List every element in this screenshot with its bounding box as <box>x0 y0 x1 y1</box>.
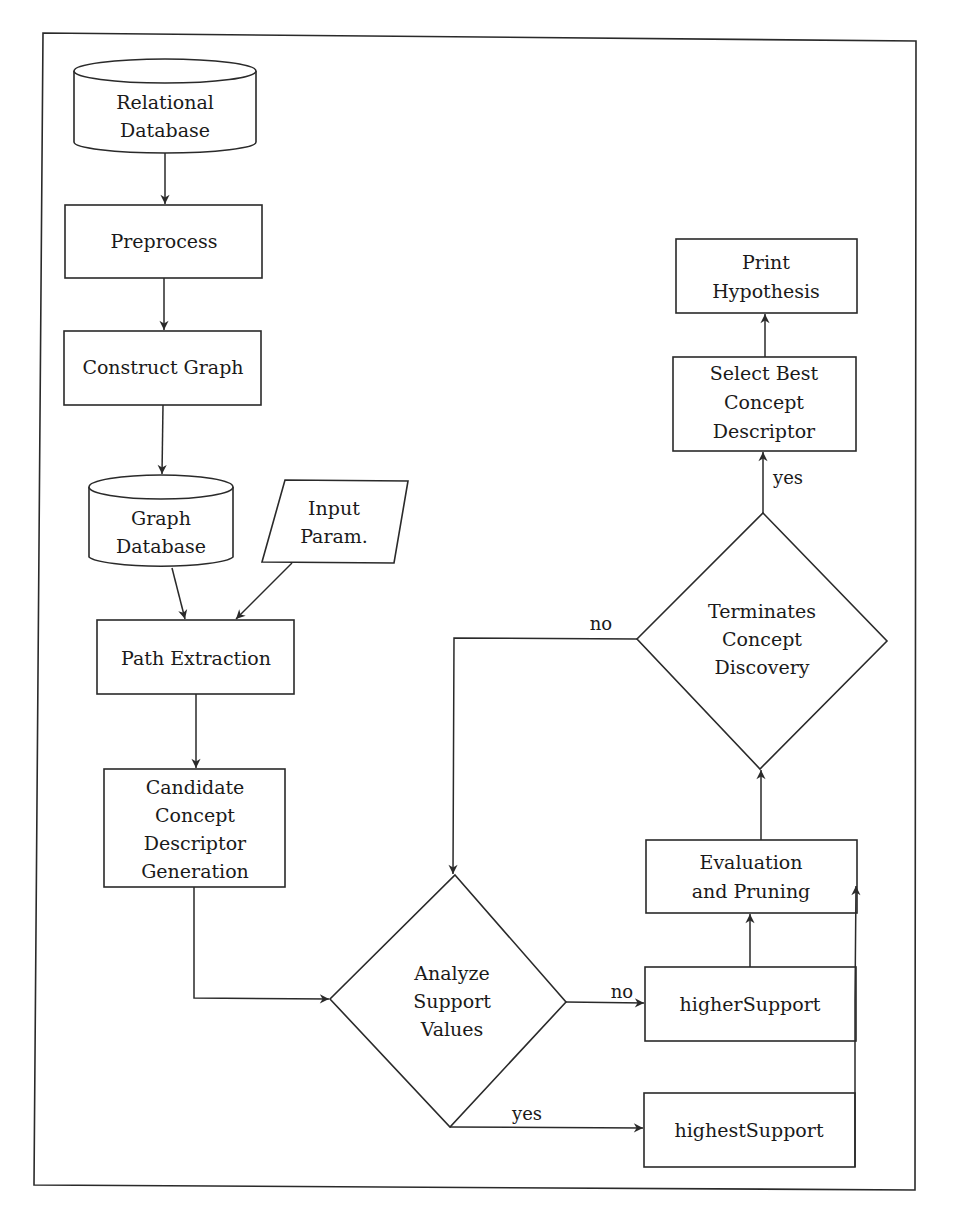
node-label: Concept <box>155 804 235 826</box>
node-label: Concept <box>722 628 802 650</box>
node-label: highestSupport <box>674 1119 823 1141</box>
node-label: Discovery <box>715 656 810 678</box>
node-label: Input <box>308 497 360 519</box>
edge-label-terminates-yes: yes <box>772 467 803 488</box>
node-label: Generation <box>141 860 249 882</box>
node-label: Relational <box>116 91 214 113</box>
node-construct-graph[interactable]: Construct Graph <box>64 331 261 405</box>
node-label: Select Best <box>710 362 819 384</box>
node-print-hypothesis[interactable]: Print Hypothesis <box>676 239 857 313</box>
node-analyze-support-values[interactable]: Analyze Support Values <box>330 875 566 1127</box>
node-higher-support[interactable]: higherSupport <box>645 967 856 1041</box>
node-select-best-concept-descriptor[interactable]: Select Best Concept Descriptor <box>673 357 856 451</box>
cylinder-top <box>74 59 256 83</box>
node-label: Construct Graph <box>82 356 243 378</box>
node-label: Concept <box>724 391 804 413</box>
edge-candidate-to-analyze <box>194 887 329 999</box>
node-label: Terminates <box>708 600 816 622</box>
input-parallelogram <box>262 480 408 563</box>
edge-label-terminates-no: no <box>590 613 612 634</box>
node-label: Descriptor <box>144 832 247 854</box>
node-label: Support <box>413 990 491 1012</box>
cylinder-top <box>89 475 233 499</box>
node-evaluation-pruning[interactable]: Evaluation and Pruning <box>646 840 857 913</box>
node-label: Hypothesis <box>712 280 820 302</box>
flowchart-canvas: Relational Database Preprocess Construct… <box>0 0 954 1215</box>
node-label: and Pruning <box>692 880 811 902</box>
edge-input-param-to-path-extraction <box>236 563 292 619</box>
edge-label-analyze-yes: yes <box>511 1103 542 1124</box>
node-label: Database <box>120 119 210 141</box>
edge-construct-graph-to-graph-db <box>162 405 163 474</box>
node-label: Descriptor <box>713 420 816 442</box>
node-label: Candidate <box>146 776 245 798</box>
node-label: Param. <box>300 525 368 547</box>
node-preprocess[interactable]: Preprocess <box>65 205 262 278</box>
edge-label-analyze-no: no <box>611 981 633 1002</box>
node-highest-support[interactable]: highestSupport <box>644 1093 855 1167</box>
node-label: Evaluation <box>700 851 803 873</box>
edge-terminates-no-to-analyze <box>453 638 637 874</box>
node-terminates-concept-discovery[interactable]: Terminates Concept Discovery <box>637 513 887 769</box>
node-relational-database[interactable]: Relational Database <box>74 59 256 153</box>
edge-graph-db-to-path-extraction <box>172 568 185 619</box>
node-label: Print <box>742 251 790 273</box>
node-input-param[interactable]: Input Param. <box>262 480 408 563</box>
node-path-extraction[interactable]: Path Extraction <box>97 620 294 694</box>
node-label: Path Extraction <box>121 647 271 669</box>
node-label: Database <box>116 535 206 557</box>
node-label: Graph <box>131 507 191 529</box>
node-label: Values <box>420 1018 484 1040</box>
node-label: higherSupport <box>680 993 821 1015</box>
node-label: Preprocess <box>110 230 217 252</box>
node-candidate-generation[interactable]: Candidate Concept Descriptor Generation <box>104 769 285 887</box>
edge-analyze-yes-to-highest-support <box>450 1127 643 1128</box>
node-graph-database[interactable]: Graph Database <box>89 475 233 566</box>
edge-analyze-no-to-higher-support <box>566 1002 644 1003</box>
node-label: Analyze <box>413 962 489 984</box>
